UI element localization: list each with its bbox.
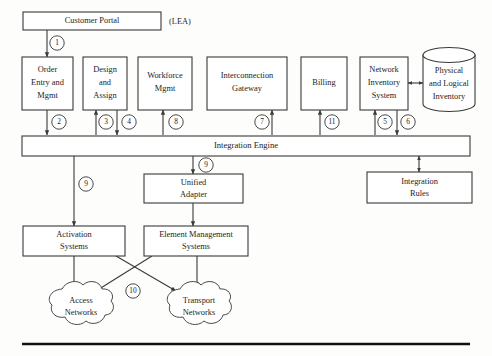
node-activation-systems[interactable]: Activation Systems [23,226,125,256]
node-physical-logical-inventory-line2: and Logical [429,79,469,88]
badge-2: 2 [52,115,66,129]
badge-10-label: 10 [129,286,137,295]
node-network-inventory-line3: System [372,91,397,100]
badge-4-label: 4 [127,117,131,126]
node-integration-engine[interactable]: Integration Engine [22,136,470,156]
node-transport-networks-line2: Networks [183,308,216,317]
node-access-networks[interactable]: Access Networks [49,282,113,325]
badge-7: 7 [255,115,269,129]
node-design-assign-line3: Assign [93,91,117,100]
node-workforce-mgmt-line2: Mgmt [155,84,176,93]
badge-11: 11 [325,115,339,129]
badge-3: 3 [99,115,113,129]
diagram-figure: Customer Portal (LEA) Order Entry and Mg… [0,0,492,356]
node-design-and-assign[interactable]: Design and Assign [83,57,127,110]
node-interconnection-gateway-line1: Interconnection [221,71,274,80]
diagram-canvas: Customer Portal (LEA) Order Entry and Mg… [0,0,492,356]
node-physical-and-logical-inventory[interactable]: Physical and Logical Inventory [423,48,475,112]
badge-11-label: 11 [328,117,335,126]
node-design-assign-line2: and [99,78,112,87]
badge-2-label: 2 [57,117,61,126]
node-transport-networks[interactable]: Transport Networks [167,282,231,325]
node-unified-adapter-line2: Adapter [180,190,207,199]
node-order-entry-and-mgmt[interactable]: Order Entry and Mgmt [22,57,73,110]
badge-5: 5 [378,115,392,129]
node-workforce-mgmt-line1: Workforce [147,71,183,80]
node-network-inventory-line1: Network [369,65,399,74]
badge-9-adapter: 9 [199,158,213,172]
node-element-management-line2: Systems [182,242,210,251]
badge-3-label: 3 [104,117,108,126]
badge-5-label: 5 [383,117,387,126]
node-network-inventory-system[interactable]: Network Inventory System [360,57,408,110]
node-order-entry-line1: Order [38,65,58,74]
badge-4: 4 [122,115,136,129]
node-unified-adapter-line1: Unified [181,178,207,187]
node-workforce-mgmt[interactable]: Workforce Mgmt [138,57,192,110]
node-interconnection-gateway-line2: Gateway [232,84,263,93]
badge-6: 6 [401,115,415,129]
node-design-assign-line1: Design [93,65,118,74]
badge-6-label: 6 [406,117,410,126]
node-activation-systems-line1: Activation [56,230,92,239]
side-note-lea: (LEA) [169,17,191,26]
node-physical-logical-inventory-line1: Physical [435,66,464,75]
node-integration-rules-line1: Integration [401,177,439,186]
node-element-management-line1: Element Management [159,230,233,239]
node-order-entry-line3: Mgmt [37,91,58,100]
node-access-networks-line2: Networks [65,308,98,317]
badge-9-activation: 9 [79,177,93,191]
node-integration-engine-label: Integration Engine [214,140,278,150]
node-billing-label: Billing [312,78,336,87]
node-integration-rules-line2: Rules [410,189,429,198]
badge-9-adapter-label: 9 [204,160,208,169]
node-customer-portal-label: Customer Portal [65,16,120,25]
node-billing[interactable]: Billing [301,57,347,110]
badge-7-label: 7 [260,117,264,126]
node-customer-portal[interactable]: Customer Portal [23,12,161,30]
badge-9-activation-label: 9 [84,179,88,188]
badge-1: 1 [50,36,64,50]
badge-10: 10 [126,284,140,298]
node-transport-networks-line1: Transport [183,296,216,305]
node-interconnection-gateway[interactable]: Interconnection Gateway [207,57,287,110]
node-order-entry-line2: Entry and [31,78,65,87]
node-network-inventory-line2: Inventory [368,78,401,87]
badge-8-label: 8 [174,117,178,126]
node-activation-systems-line2: Systems [60,242,88,251]
node-integration-rules[interactable]: Integration Rules [367,172,472,203]
badge-1-label: 1 [55,38,59,47]
node-access-networks-line1: Access [69,296,93,305]
badge-8: 8 [169,115,183,129]
node-element-management-systems[interactable]: Element Management Systems [144,226,248,256]
node-physical-logical-inventory-line3: Inventory [433,92,466,101]
node-unified-adapter[interactable]: Unified Adapter [144,174,243,203]
